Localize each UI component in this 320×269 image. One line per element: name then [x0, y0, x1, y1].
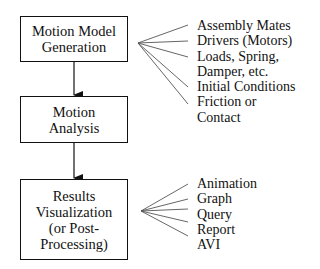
list-item: Friction or	[197, 94, 295, 109]
list-item: Query	[197, 207, 257, 222]
list-item: Initial Conditions	[197, 79, 295, 94]
box-label-line: Visualization	[36, 204, 112, 220]
box-label-line: Motion Model	[32, 23, 116, 39]
box-label-line: Processing)	[40, 236, 108, 252]
output-fan-lines	[141, 184, 188, 236]
box-label-line: Analysis	[49, 120, 100, 136]
list-item: AVI	[197, 237, 257, 252]
list-item: Drivers (Motors)	[197, 33, 295, 48]
list-item: Animation	[197, 176, 257, 191]
motion-model-generation-box: Motion Model Generation	[20, 16, 128, 62]
list-item: Graph	[197, 191, 257, 206]
list-item: Loads, Spring,	[197, 49, 295, 64]
list-item: Contact	[197, 110, 295, 125]
list-item: Damper, etc.	[197, 64, 295, 79]
box-label-line: Generation	[42, 39, 106, 55]
list-item: Report	[197, 222, 257, 237]
input-fan-lines	[138, 25, 188, 104]
motion-analysis-box: Motion Analysis	[20, 96, 128, 143]
list-item: Assembly Mates	[197, 18, 295, 33]
box-label-line: (or Post-	[49, 220, 99, 236]
box-label-line: Results	[53, 188, 96, 204]
results-visualization-box: Results Visualization (or Post- Processi…	[20, 179, 128, 260]
generation-inputs-list: Assembly Mates Drivers (Motors) Loads, S…	[197, 18, 295, 125]
visualization-outputs-list: Animation Graph Query Report AVI	[197, 176, 257, 252]
box-label-line: Motion	[53, 104, 96, 120]
